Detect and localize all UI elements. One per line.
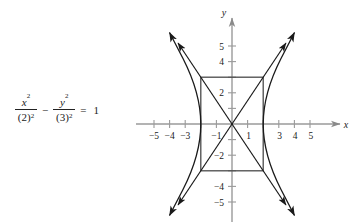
fraction-bar (53, 109, 75, 110)
x-denominator-exponent: 2 (31, 112, 35, 120)
x-tick-label--4: −4 (165, 131, 175, 141)
y-term-denominator: (3)2 (54, 111, 74, 124)
y-tick-label--4: −4 (214, 182, 224, 192)
x-tick-label-5: 5 (308, 131, 313, 141)
asymptote-upper-left (178, 43, 232, 124)
equals-sign: = (80, 104, 86, 116)
minus-operator: − (42, 104, 48, 116)
x-tick-label--1: −1 (211, 131, 221, 141)
x-denominator-base: (2) (18, 111, 31, 123)
y-term-numerator: y2 (58, 96, 70, 108)
y-tick-label--5: −5 (214, 198, 224, 208)
x-term-fraction: x2 (2)2 (15, 96, 37, 124)
y-term-fraction: y2 (3)2 (53, 96, 75, 124)
x-tick-label-3: 3 (277, 131, 282, 141)
hyperbola-plot: −5 −4 −3 −1 1 3 4 5 5 4 2 −2 −4 −5 x y (118, 0, 358, 224)
x-variable: x (22, 96, 27, 108)
x-axis-label: x (343, 119, 349, 130)
hyperbola-right-upper (263, 33, 294, 125)
y-tick-label--2: −2 (214, 151, 224, 161)
x-tick-label--5: −5 (149, 131, 159, 141)
figure-canvas: x2 (2)2 − y2 (3)2 = 1 (0, 0, 358, 224)
y-tick-label-4: 4 (219, 57, 224, 67)
x-term-denominator: (2)2 (16, 111, 36, 124)
y-axis-label: y (221, 7, 227, 18)
y-denominator-exponent: 2 (69, 112, 73, 120)
y-tick-label-5: 5 (219, 42, 224, 52)
x-tick-label-4: 4 (293, 131, 298, 141)
x-tick-label--3: −3 (180, 131, 190, 141)
x-tick-label-1: 1 (246, 131, 251, 141)
x-exponent: 2 (27, 92, 31, 100)
hyperbola-equation: x2 (2)2 − y2 (3)2 = 1 (14, 96, 99, 124)
asymptote-upper-right (232, 43, 286, 124)
y-denominator-base: (3) (56, 111, 69, 123)
x-term-numerator: x2 (20, 96, 32, 108)
hyperbola-left-upper (170, 33, 201, 125)
fraction-bar (15, 109, 37, 110)
axes (136, 18, 340, 222)
y-tick-label-2: 2 (219, 88, 224, 98)
equation-right-hand-side: 1 (93, 104, 99, 116)
y-exponent: 2 (65, 92, 69, 100)
